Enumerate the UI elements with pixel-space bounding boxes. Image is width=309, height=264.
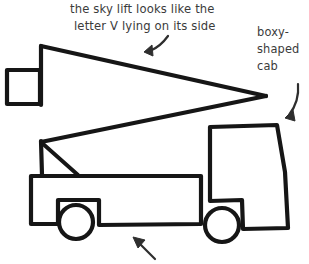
truck-cab bbox=[210, 125, 288, 229]
sky-lift-lower-arm bbox=[41, 96, 266, 142]
sketch-canvas: the sky lift looks like the letter V lyi… bbox=[0, 0, 309, 264]
bed-arrow-icon bbox=[133, 237, 155, 259]
cab-annotation-line3: cab bbox=[257, 59, 278, 73]
sky-lift-diagonal-brace bbox=[42, 143, 78, 175]
rear-wheel bbox=[59, 205, 93, 239]
cab-annotation-line2: shaped bbox=[257, 42, 300, 56]
truck-bed bbox=[31, 176, 201, 225]
front-wheel bbox=[205, 208, 239, 242]
sky-lift-annotation-line2: letter V lying on its side bbox=[74, 19, 216, 33]
sky-lift-mast bbox=[41, 141, 42, 175]
cab-annotation-line1: boxy- bbox=[257, 25, 289, 39]
bucket-square bbox=[7, 70, 40, 104]
cab-arrow-icon bbox=[285, 84, 298, 121]
sky-lift-upper-arm bbox=[41, 46, 266, 96]
sky-lift-annotation-line1: the sky lift looks like the bbox=[70, 2, 215, 16]
sky-lift-arrow-icon bbox=[144, 36, 168, 56]
